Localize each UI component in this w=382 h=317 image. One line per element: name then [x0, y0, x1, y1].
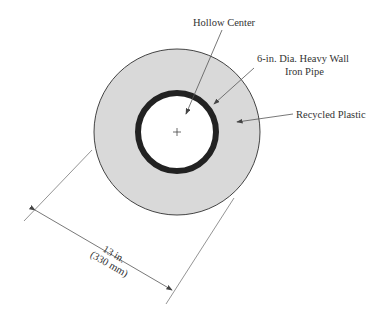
- iron-pipe-label-line2: Iron Pipe: [285, 66, 324, 77]
- iron-pipe-label-line1: 6-in. Dia. Heavy Wall: [257, 53, 349, 64]
- pipe-cross-section-diagram: Hollow Center 6-in. Dia. Heavy Wall Iron…: [0, 0, 382, 317]
- hollow-center-label: Hollow Center: [193, 17, 256, 28]
- extension-line-left: [24, 150, 92, 221]
- recycled-plastic-label: Recycled Plastic: [296, 109, 366, 120]
